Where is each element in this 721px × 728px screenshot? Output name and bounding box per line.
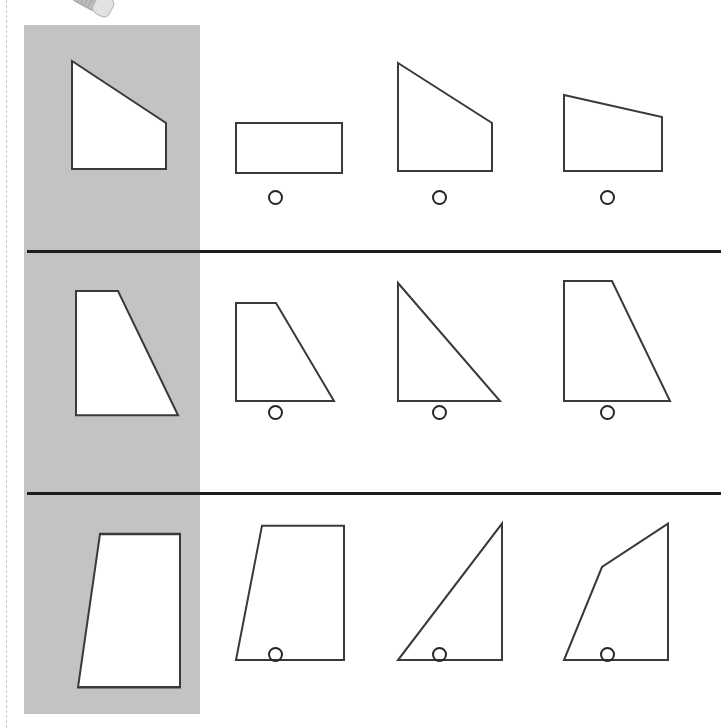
- radio-row-2-option-a[interactable]: [268, 405, 283, 420]
- option-shape-row-1-c: [550, 51, 680, 181]
- option-cell-row-1-b[interactable]: [372, 25, 532, 250]
- reference-cell-row-3: [24, 495, 200, 728]
- option-cell-row-2-a[interactable]: [210, 253, 370, 492]
- radio-row-3-option-b[interactable]: [432, 647, 447, 662]
- option-shape-row-1-b: [384, 51, 514, 181]
- quiz-row-3: [0, 495, 721, 728]
- radio-row-3-option-a[interactable]: [268, 647, 283, 662]
- option-shape-row-2-c: [550, 275, 680, 415]
- glue-stick-photo-fragment: [64, 0, 122, 22]
- option-shape-row-3-c: [550, 505, 680, 660]
- option-shape-row-2-a: [222, 275, 352, 415]
- option-cell-row-2-b[interactable]: [372, 253, 532, 492]
- option-cell-row-3-a[interactable]: [210, 495, 370, 728]
- radio-row-3-option-c[interactable]: [600, 647, 615, 662]
- option-cell-row-1-c[interactable]: [538, 25, 703, 250]
- worksheet-page: [0, 0, 721, 728]
- radio-row-1-option-b[interactable]: [432, 190, 447, 205]
- reference-cell-row-1: [24, 25, 200, 250]
- reference-shape-row-1: [44, 51, 194, 181]
- reference-cell-row-2: [24, 253, 200, 492]
- reference-shape-row-3: [44, 501, 194, 666]
- radio-row-2-option-c[interactable]: [600, 405, 615, 420]
- option-cell-row-3-c[interactable]: [538, 495, 703, 728]
- option-shape-row-3-b: [384, 505, 514, 660]
- reference-shape-row-2: [44, 261, 194, 411]
- option-shape-row-2-b: [384, 275, 514, 415]
- option-shape-row-3-a: [222, 505, 352, 660]
- radio-row-1-option-a[interactable]: [268, 190, 283, 205]
- option-cell-row-1-a[interactable]: [210, 25, 370, 250]
- radio-row-2-option-b[interactable]: [432, 405, 447, 420]
- radio-row-1-option-c[interactable]: [600, 190, 615, 205]
- option-cell-row-3-b[interactable]: [372, 495, 532, 728]
- quiz-row-1: [0, 25, 721, 250]
- option-shape-row-1-a: [222, 51, 352, 181]
- option-cell-row-2-c[interactable]: [538, 253, 703, 492]
- quiz-row-2: [0, 253, 721, 492]
